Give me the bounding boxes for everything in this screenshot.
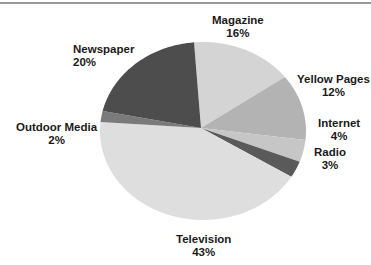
label-internet: Internet 4% [318,117,360,143]
label-radio: Radio 3% [314,146,346,172]
label-outdoor-media: Outdoor Media 2% [16,121,97,147]
label-radio-name: Radio [314,146,346,158]
label-magazine-pct: 16% [212,27,264,40]
label-newspaper: Newspaper 20% [73,43,134,69]
label-television: Television 43% [176,233,231,259]
label-newspaper-name: Newspaper [73,43,134,55]
label-internet-pct: 4% [318,130,360,143]
label-television-pct: 43% [176,246,231,259]
label-magazine-name: Magazine [212,14,264,26]
label-yellow-pages-name: Yellow Pages [297,73,370,85]
label-newspaper-pct: 20% [73,56,134,69]
label-magazine: Magazine 16% [212,14,264,40]
label-yellow-pages: Yellow Pages 12% [297,73,370,99]
label-radio-pct: 3% [314,159,346,172]
label-outdoor-media-pct: 2% [16,134,97,147]
label-yellow-pages-pct: 12% [297,86,370,99]
label-television-name: Television [176,233,231,245]
label-outdoor-media-name: Outdoor Media [16,121,97,133]
label-internet-name: Internet [318,117,360,129]
